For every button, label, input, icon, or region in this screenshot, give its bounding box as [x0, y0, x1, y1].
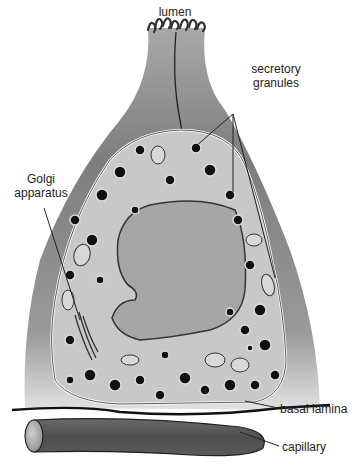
label-golgi-line1: Golgi [6, 172, 76, 186]
label-golgi-line2: apparatus [6, 186, 76, 200]
label-secretory-granules-line1: secretory [236, 62, 316, 76]
label-basal-lamina: basal lamina [280, 402, 347, 416]
label-secretory-granules-line2: granules [236, 76, 316, 90]
label-golgi-apparatus: Golgi apparatus [6, 172, 76, 200]
capillary-end [25, 420, 43, 452]
label-capillary: capillary [282, 440, 326, 454]
label-lumen: lumen [150, 5, 200, 19]
nucleus [112, 201, 246, 340]
label-secretory-granules: secretory granules [236, 62, 316, 90]
capillary [34, 419, 264, 456]
